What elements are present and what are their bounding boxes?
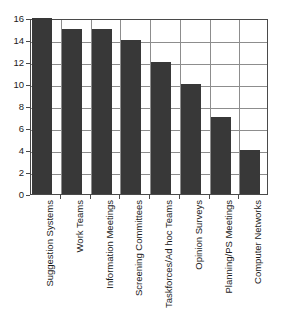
x-axis-label: Screening Committees [134, 200, 144, 296]
bar [92, 29, 112, 194]
bar [121, 40, 141, 194]
x-axis-label-text: Computer Networks [253, 200, 263, 284]
bar-chart: 0246810121416 Suggestion SystemsWork Tea… [0, 0, 285, 334]
x-axis-tick [179, 195, 180, 199]
x-axis-label-text: Work Teams [75, 200, 85, 252]
y-axis-tick-label: 6 [19, 124, 24, 134]
x-axis-tick [60, 195, 61, 199]
plot-area [30, 19, 268, 195]
bar [181, 84, 201, 194]
x-axis-label-text: Planning/PS Meetings [224, 200, 234, 293]
bars-layer [31, 20, 267, 194]
y-axis-tick-label: 8 [19, 102, 24, 112]
x-axis-label: Work Teams [75, 200, 85, 252]
x-axis-label: Information Meetings [105, 200, 115, 289]
x-axis-label: Planning/PS Meetings [224, 200, 234, 293]
x-axis-labels: Suggestion SystemsWork TeamsInformation … [30, 200, 268, 332]
bar [32, 18, 52, 194]
x-axis-label: Taskforces/Ad hoc Teams [164, 200, 174, 308]
x-axis-label: Opinion Surveys [194, 200, 204, 270]
bar [240, 150, 260, 194]
bar [211, 117, 231, 194]
x-axis-label: Computer Networks [253, 200, 263, 284]
y-axis-tick-label: 4 [19, 146, 24, 156]
x-axis-tick [238, 195, 239, 199]
x-axis-label-text: Screening Committees [134, 200, 144, 296]
y-axis-tick-label: 16 [13, 14, 24, 24]
y-axis-tick-label: 12 [13, 58, 24, 68]
bar [62, 29, 82, 194]
y-axis-tick-label: 14 [13, 36, 24, 46]
x-axis-tick [90, 195, 91, 199]
x-axis-label-text: Taskforces/Ad hoc Teams [164, 200, 174, 308]
y-axis-tick-label: 2 [19, 168, 24, 178]
x-axis-label-text: Suggestion Systems [45, 200, 55, 287]
y-axis-tick-label: 0 [19, 190, 24, 200]
y-axis: 0246810121416 [0, 0, 30, 334]
y-axis-tick-label: 10 [13, 80, 24, 90]
x-axis-tick [119, 195, 120, 199]
bar [151, 62, 171, 194]
x-axis-label-text: Opinion Surveys [194, 200, 204, 270]
x-axis-label: Suggestion Systems [45, 200, 55, 287]
x-axis-label-text: Information Meetings [105, 200, 115, 289]
x-axis-tick [209, 195, 210, 199]
x-axis-tick [149, 195, 150, 199]
